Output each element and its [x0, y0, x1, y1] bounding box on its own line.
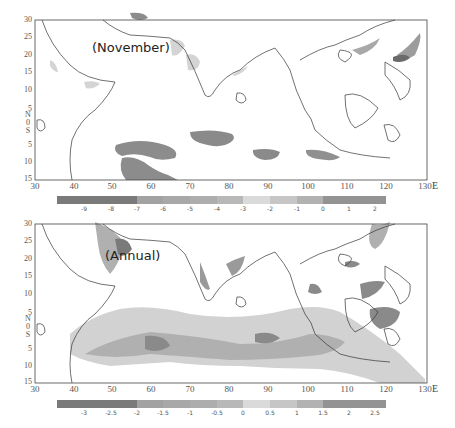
y-tick: 10	[18, 85, 32, 94]
x-tick: 80	[217, 181, 241, 191]
colorbar-tick: 2.5	[365, 409, 385, 416]
y-tick: 30	[18, 15, 32, 24]
x-tick: 70	[178, 181, 202, 191]
annual-label: (Annual)	[105, 248, 160, 263]
x-tick: 70	[178, 384, 202, 394]
november-colorbar	[57, 196, 386, 204]
x-tick: 120	[374, 181, 398, 191]
colorbar-tick: 2	[339, 409, 359, 416]
x-unit: E	[432, 383, 438, 394]
y-tick: 20	[18, 50, 32, 59]
x-tick: 90	[256, 384, 280, 394]
colorbar-tick: 0.5	[260, 409, 280, 416]
y-tick: 10	[18, 157, 32, 166]
november-label: (November)	[92, 40, 170, 55]
colorbar-tick: -1.5	[153, 409, 173, 416]
y-tick: 0	[23, 323, 33, 330]
x-tick: 80	[217, 384, 241, 394]
x-tick: 100	[296, 384, 320, 394]
south-label: S	[23, 127, 33, 134]
x-tick: 100	[296, 181, 320, 191]
y-tick: 0	[23, 119, 33, 126]
november-panel: (November) 30 25 20 15 10 5 N 0 S 5 10 1…	[0, 0, 455, 214]
y-tick: 5	[18, 140, 32, 149]
x-tick: 60	[139, 384, 163, 394]
colorbar-tick: 1	[287, 409, 307, 416]
colorbar-tick: -1	[180, 409, 200, 416]
y-tick: 5	[18, 344, 32, 353]
y-tick: 30	[18, 219, 32, 228]
x-tick: 90	[256, 181, 280, 191]
y-tick: 10	[18, 361, 32, 370]
y-tick: 10	[18, 289, 32, 298]
y-tick: 15	[18, 271, 32, 280]
annual-colorbar	[57, 400, 386, 408]
x-tick: 120	[374, 384, 398, 394]
anomaly-shading	[115, 13, 421, 180]
x-tick: 30	[23, 384, 47, 394]
y-tick: 25	[18, 32, 32, 41]
x-unit: E	[432, 180, 438, 191]
x-tick: 50	[100, 384, 124, 394]
x-tick: 60	[139, 181, 163, 191]
colorbar-tick: -0.5	[207, 409, 227, 416]
annual-panel: (Annual) 30 25 20 15 10 5 N 0 S 5 10 15 …	[0, 204, 455, 428]
x-tick: 50	[100, 181, 124, 191]
annual-map	[0, 204, 455, 428]
south-label: S	[23, 331, 33, 338]
x-tick: 110	[335, 384, 359, 394]
y-tick: 15	[18, 67, 32, 76]
colorbar-tick: -2	[127, 409, 147, 416]
north-label: N	[23, 111, 33, 118]
north-label: N	[23, 315, 33, 322]
colorbar-tick: 0	[233, 409, 253, 416]
y-tick: 25	[18, 236, 32, 245]
colorbar-tick: 1.5	[313, 409, 333, 416]
x-tick: 40	[62, 384, 86, 394]
y-tick: 20	[18, 254, 32, 263]
x-tick: 40	[62, 181, 86, 191]
x-tick: 30	[23, 181, 47, 191]
colorbar-tick: -2.5	[101, 409, 121, 416]
x-tick: 110	[335, 181, 359, 191]
colorbar-tick: -3	[74, 409, 94, 416]
